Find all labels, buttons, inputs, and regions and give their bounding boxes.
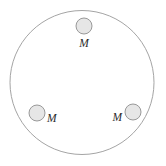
mass-label-bottom-left: M: [46, 112, 58, 124]
mass-disk-bottom-left: [29, 105, 45, 121]
mass-label-top: M: [78, 37, 90, 49]
figure-container: M M M: [0, 0, 166, 166]
mass-disk-bottom-right: [125, 104, 141, 120]
circle-with-three-masses-diagram: M M M: [0, 0, 166, 166]
mass-label-bottom-right: M: [111, 111, 123, 123]
mass-disk-top: [76, 18, 92, 34]
